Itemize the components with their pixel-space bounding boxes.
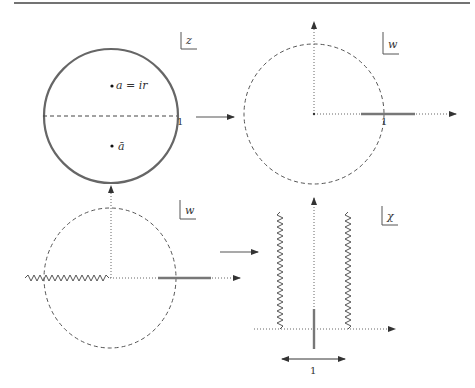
plane-label-w-top: w [388, 38, 398, 51]
origin-dot [313, 113, 315, 115]
conformal-map-diagram: a = ir ā 1 z 1 w w 1 [0, 0, 475, 388]
point-abar [110, 144, 113, 147]
panel-z: a = ir ā 1 z [43, 32, 197, 183]
panel-chi: 1 χ [254, 198, 398, 376]
point-a [110, 84, 113, 87]
plane-label-chi: χ [386, 210, 395, 223]
panel-w-top: 1 w [244, 22, 456, 184]
unit-label-z: 1 [177, 116, 183, 127]
plane-label-z: z [185, 34, 192, 47]
point-a-label: a = ir [116, 79, 148, 92]
branch-cut-zigzag [25, 275, 109, 281]
unit-label-w: 1 [381, 116, 387, 127]
plane-label-w-bottom: w [185, 204, 195, 217]
left-branch-cut [277, 212, 283, 329]
point-abar-label: ā [118, 140, 125, 153]
panel-w-bottom: w [25, 200, 240, 348]
right-branch-cut [345, 212, 351, 329]
width-label: 1 [310, 365, 316, 376]
